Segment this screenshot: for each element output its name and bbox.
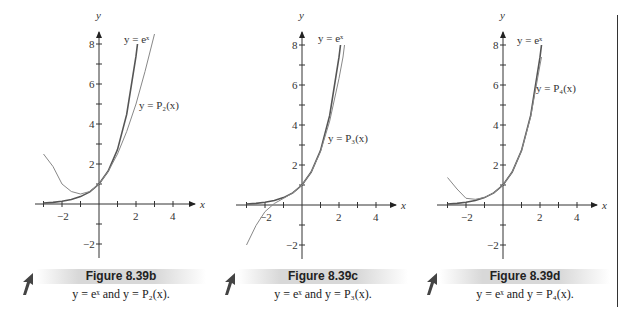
y-tick-label: 6	[89, 78, 95, 90]
figure-8-39b-plot: −2 2 4 8 6 4 2 −2 x y y = eˣ y = P₂(x)	[35, 9, 205, 258]
figure-caption-text: y = eˣ and y = P₄(x).	[440, 287, 610, 302]
x-tick-label: 2	[336, 211, 342, 223]
y-tick-label: −2	[487, 239, 499, 251]
y-tick-label: 8	[493, 39, 499, 51]
figure-8-39c-caption: Figure 8.39c y = eˣ and y = P₃(x).	[238, 269, 408, 302]
x-axis-label: x	[199, 198, 205, 210]
y-tick-label: 8	[89, 38, 95, 50]
ex-curve-label: y = eˣ	[318, 32, 344, 44]
figure-8-39c-plot: −2 2 4 8 6 4 2 −2 x y y = eˣ y = P₃(x)	[236, 9, 406, 259]
x-tick-label: −2	[57, 210, 69, 222]
y-tick-label: 4	[89, 118, 95, 130]
figure-caption-text: y = eˣ and y = P₃(x).	[238, 287, 408, 302]
y-tick-label: 2	[89, 158, 95, 170]
figure-title: Figure 8.39c	[238, 269, 408, 284]
y-tick-label: −2	[286, 239, 298, 251]
poly-curve-label: y = P₂(x)	[139, 99, 179, 112]
x-axis-label: x	[400, 199, 406, 211]
x-tick-label: 2	[133, 210, 139, 222]
x-tick-label: 4	[574, 211, 580, 223]
x-tick-label: −2	[461, 211, 473, 223]
x-tick-label: 4	[373, 211, 379, 223]
y-tick-label: 8	[292, 39, 298, 51]
figure-title: Figure 8.39b	[36, 269, 206, 284]
figure-title: Figure 8.39d	[440, 269, 610, 284]
ex-curve-label: y = eˣ	[517, 34, 543, 46]
figures-canvas: −2 2 4 8 6 4 2 −2 x y y = eˣ y = P₂(x)	[0, 0, 625, 311]
y-axis-label: y	[499, 9, 505, 21]
y-tick-label: 2	[292, 159, 298, 171]
figure-8-39d-plot: −2 2 4 8 6 4 2 −2 x y y = eˣ y = P₄(x)	[437, 9, 607, 259]
y-tick-label: −2	[83, 238, 95, 250]
y-axis	[500, 32, 506, 259]
y-tick-label: 6	[493, 79, 499, 91]
y-axis	[96, 32, 102, 258]
figure-caption-text: y = eˣ and y = P₂(x).	[36, 287, 206, 302]
poly-curve-label: y = P₄(x)	[536, 82, 576, 95]
x-tick-label: 4	[170, 210, 176, 222]
y-tick-label: 2	[493, 159, 499, 171]
y-axis	[299, 32, 305, 259]
figure-8-39d-caption: Figure 8.39d y = eˣ and y = P₄(x).	[440, 269, 610, 302]
x-tick-label: 2	[537, 211, 543, 223]
ex-curve-label: y = eˣ	[124, 33, 150, 45]
x-axis-label: x	[601, 199, 607, 211]
y-tick-label: 4	[292, 119, 298, 131]
arrow-icon	[222, 272, 238, 296]
arrow-icon	[20, 272, 36, 296]
poly-curve-label: y = P₃(x)	[328, 132, 368, 145]
page-margin-rule	[617, 15, 618, 307]
arrow-icon	[424, 272, 440, 296]
y-tick-label: 6	[292, 79, 298, 91]
y-axis-label: y	[298, 9, 304, 21]
figure-8-39b-caption: Figure 8.39b y = eˣ and y = P₂(x).	[36, 269, 206, 302]
y-axis-label: y	[95, 9, 101, 21]
y-tick-label: 4	[493, 119, 499, 131]
